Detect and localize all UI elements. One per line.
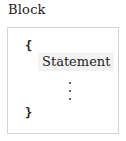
dot <box>69 98 71 100</box>
vertical-ellipsis-icon <box>69 82 71 106</box>
statement-label: Statement <box>38 53 114 71</box>
dot <box>69 82 71 84</box>
open-brace: { <box>25 39 32 53</box>
close-brace: } <box>25 106 32 120</box>
dot <box>69 90 71 92</box>
diagram-title: Block <box>8 2 46 17</box>
block-container: { Statement } <box>7 27 119 134</box>
